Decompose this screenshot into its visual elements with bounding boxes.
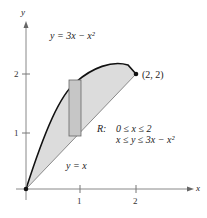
point-2-2 [134,72,139,77]
x-axis-label: x [196,184,200,193]
plot-canvas [0,0,207,218]
x-tick-2: 2 [133,196,138,206]
point-label: (2, 2) [142,70,164,80]
representative-rectangle [69,80,81,136]
parabola-label: y = 3x − x² [50,31,95,41]
region-label: R: [97,124,106,134]
region-condition-2: x ≤ y ≤ 3x − x² [116,135,174,145]
y-axis-label: y [21,8,25,17]
y-tick-1: 1 [14,128,19,138]
y-axis-arrow-icon [24,21,29,28]
x-axis-arrow-icon [187,187,194,192]
x-tick-1: 1 [77,196,82,206]
y-tick-2: 2 [14,69,19,79]
region-condition-1: 0 ≤ x ≤ 2 [116,124,151,134]
origin-point [24,187,29,192]
line-label: y = x [66,161,87,171]
